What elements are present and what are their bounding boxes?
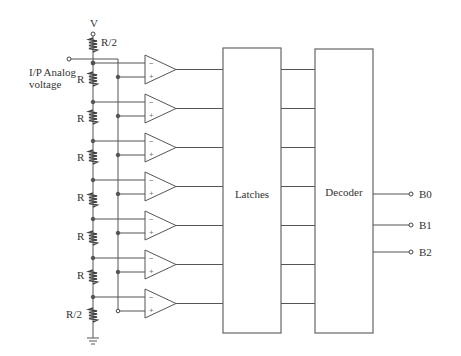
comparator-5: −+ (91, 211, 223, 240)
comparator-3: −+ (91, 133, 223, 162)
svg-text:+: + (149, 72, 154, 81)
latches-label: Latches (235, 188, 269, 200)
ladder-top-node (91, 61, 95, 65)
decoder-label: Decoder (325, 186, 363, 198)
svg-text:−: − (149, 137, 154, 146)
resistor-label-4: R (77, 191, 85, 203)
resistor-label-6: R (77, 269, 85, 281)
svg-text:−: − (149, 215, 154, 224)
resistor-4 (89, 193, 97, 207)
output-b1: B1 (373, 219, 432, 231)
resistor-5 (89, 231, 97, 245)
svg-text:+: + (149, 267, 154, 276)
supply-terminal (91, 32, 95, 36)
svg-text:+: + (149, 189, 154, 198)
resistor-label-7: R/2 (66, 308, 82, 320)
input-label-line2: voltage (29, 78, 61, 90)
latch-to-decoder-wires (281, 70, 315, 304)
output-b0: B0 (373, 188, 432, 200)
comparator-7: −+ (91, 289, 223, 318)
comparator-bank: −+ −+ −+ −+ (91, 55, 223, 318)
svg-text:−: − (149, 176, 154, 185)
svg-text:−: − (149, 254, 154, 263)
comparator-4: −+ (91, 172, 223, 201)
supply-label: V (90, 17, 98, 29)
resistor-3 (89, 150, 97, 164)
resistor-label-1: R (77, 73, 85, 85)
analog-input-terminal (67, 57, 71, 61)
output-b2: B2 (373, 246, 432, 258)
output-label-b1: B1 (419, 219, 432, 231)
resistor-bottom-half (89, 308, 97, 322)
resistor-top-half (89, 38, 97, 52)
resistor-1 (89, 72, 97, 86)
comparator-6: −+ (91, 250, 223, 279)
resistor-label-0: R/2 (101, 36, 117, 48)
resistor-2 (89, 110, 97, 124)
resistor-label-3: R (77, 151, 85, 163)
ground-icon (87, 338, 99, 344)
resistor-6 (89, 270, 97, 284)
output-label-b0: B0 (419, 188, 432, 200)
output-label-b2: B2 (419, 246, 432, 258)
svg-text:−: − (149, 98, 154, 107)
comparator-2: −+ (91, 94, 223, 123)
resistor-label-5: R (77, 230, 85, 242)
flash-adc-diagram: V R/2 R R R R R R R/2 I/P Analog voltage (0, 0, 461, 356)
svg-text:+: + (149, 150, 154, 159)
svg-text:+: + (149, 111, 154, 120)
svg-text:+: + (149, 306, 154, 315)
input-label-line1: I/P Analog (29, 66, 76, 78)
svg-text:−: − (149, 293, 154, 302)
svg-text:+: + (149, 228, 154, 237)
svg-text:−: − (149, 59, 154, 68)
resistor-label-2: R (77, 112, 85, 124)
